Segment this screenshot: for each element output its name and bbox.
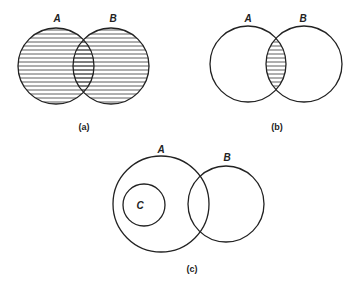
label-b: B <box>299 13 306 24</box>
venn-diagram-figure: A B (a) A B (b) A B C (c) <box>0 0 357 289</box>
caption-a: (a) <box>79 122 90 132</box>
label-a: A <box>243 13 251 24</box>
label-b: B <box>223 152 230 163</box>
circle-a <box>113 156 209 252</box>
caption-c: (c) <box>187 264 198 274</box>
label-b: B <box>109 13 116 24</box>
caption-b: (b) <box>271 122 283 132</box>
panel-a: A B (a) <box>18 13 149 132</box>
label-a: A <box>52 13 60 24</box>
panel-b: A B (b) <box>210 13 342 132</box>
circle-c <box>123 184 165 226</box>
label-c: C <box>136 200 144 211</box>
circle-b <box>188 166 264 242</box>
label-a: A <box>156 144 164 155</box>
panel-c: A B C (c) <box>113 144 264 274</box>
